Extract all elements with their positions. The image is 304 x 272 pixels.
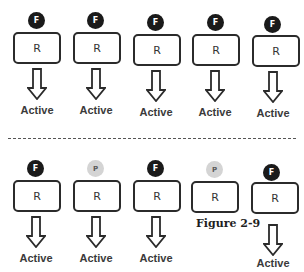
down-arrow-icon [86,216,106,248]
receptor-box: R [133,34,181,66]
active-label: Active [6,252,66,264]
receptor-box: R [251,182,299,214]
receptor-box: R [252,35,300,67]
active-label: Active [66,104,126,116]
down-arrow-icon [26,216,46,248]
receptor-box: R [192,34,240,66]
full-agonist-ligand: F [263,164,280,181]
ligand-label: P [93,165,98,173]
receptor-box: R [133,180,181,212]
receptor-box: R [13,180,61,212]
receptor-label: R [271,192,279,205]
down-arrow-icon [86,68,106,100]
receptor-label: R [33,190,41,203]
receptor-label: R [211,191,219,204]
active-label: Active [185,106,245,118]
full-agonist-ligand: F [28,12,45,29]
receptor-box: R [13,32,61,64]
dashed-divider [8,138,296,139]
active-label: Active [126,106,186,118]
down-arrow-icon [263,224,283,256]
receptor-label: R [33,42,41,55]
figure-caption: Figure 2-9 [196,217,260,230]
ligand-label: F [153,164,158,173]
ligand-label: F [33,164,38,173]
down-arrow-icon [146,70,166,102]
full-agonist-ligand: F [147,14,164,31]
receptor-label: R [153,44,161,57]
ligand-label: F [153,18,158,27]
receptor-label: R [212,44,220,57]
full-agonist-ligand: F [147,160,164,177]
receptor-label: R [153,190,161,203]
ligand-label: F [213,18,218,27]
receptor-label: R [93,42,101,55]
down-arrow-icon [205,70,225,102]
receptor-box: R [191,181,239,213]
active-label: Active [7,104,67,116]
receptor-activation-diagram: F R Active F R Active F R Active F R Act… [0,0,304,272]
receptor-label: R [93,190,101,203]
ligand-label: F [269,168,274,177]
partial-agonist-ligand: P [206,161,223,178]
full-agonist-ligand: F [27,160,44,177]
receptor-label: R [272,45,280,58]
down-arrow-icon [27,68,47,100]
ligand-label: P [212,166,217,174]
down-arrow-icon [263,71,283,103]
partial-agonist-ligand: P [87,160,104,177]
ligand-label: F [34,16,39,25]
receptor-box: R [73,180,121,212]
active-label: Active [243,257,303,269]
ligand-label: F [270,20,275,29]
full-agonist-ligand: F [264,16,281,33]
full-agonist-ligand: F [87,12,104,29]
active-label: Active [66,252,126,264]
down-arrow-icon [146,216,166,248]
ligand-label: F [93,16,98,25]
receptor-box: R [73,32,121,64]
active-label: Active [126,252,186,264]
active-label: Active [243,107,303,119]
full-agonist-ligand: F [207,14,224,31]
